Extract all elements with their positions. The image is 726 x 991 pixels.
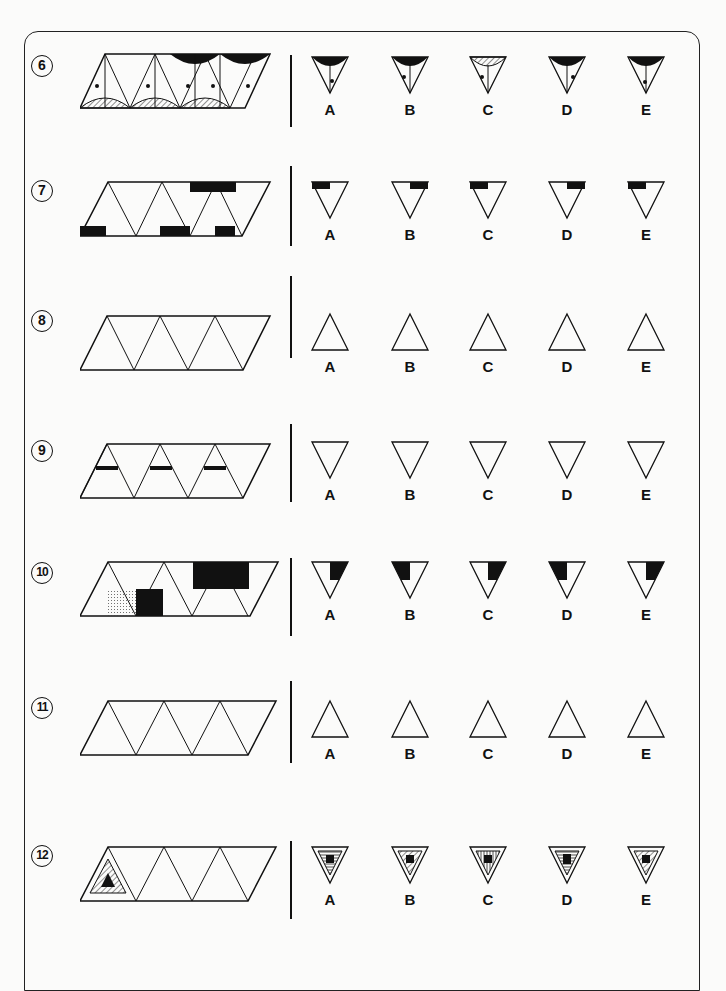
option-label: A — [300, 358, 360, 375]
question-number: 11 — [31, 697, 53, 719]
option-label: C — [458, 486, 518, 503]
option-label: E — [616, 606, 676, 623]
option-figure — [547, 440, 587, 480]
option-label: A — [300, 486, 360, 503]
divider — [290, 55, 292, 127]
sequence-strip — [80, 560, 280, 620]
option-label: D — [537, 891, 597, 908]
divider — [290, 276, 292, 358]
option-b[interactable]: B — [380, 699, 440, 762]
option-figure — [468, 180, 508, 220]
option-b[interactable]: B — [380, 845, 440, 908]
option-figure — [310, 180, 350, 220]
option-figure — [626, 440, 666, 480]
option-figure — [390, 440, 430, 480]
option-figure — [468, 440, 508, 480]
option-figure — [310, 699, 350, 739]
option-label: B — [380, 358, 440, 375]
option-figure — [547, 699, 587, 739]
option-c[interactable]: C — [458, 560, 518, 623]
option-figure — [626, 845, 666, 885]
option-a[interactable]: A — [300, 312, 360, 375]
option-a[interactable]: A — [300, 845, 360, 908]
option-d[interactable]: D — [537, 560, 597, 623]
option-label: A — [300, 745, 360, 762]
option-figure — [390, 180, 430, 220]
question-number: 9 — [31, 440, 53, 462]
option-figure — [310, 845, 350, 885]
option-label: A — [300, 226, 360, 243]
sequence-strip — [80, 442, 280, 502]
option-figure — [468, 845, 508, 885]
option-c[interactable]: C — [458, 312, 518, 375]
option-b[interactable]: B — [380, 55, 440, 118]
option-label: E — [616, 101, 676, 118]
option-c[interactable]: C — [458, 699, 518, 762]
option-a[interactable]: A — [300, 699, 360, 762]
option-e[interactable]: E — [616, 180, 676, 243]
option-c[interactable]: C — [458, 55, 518, 118]
divider — [290, 166, 292, 246]
option-b[interactable]: B — [380, 312, 440, 375]
option-label: C — [458, 891, 518, 908]
option-e[interactable]: E — [616, 699, 676, 762]
question-number: 7 — [31, 180, 53, 202]
option-label: B — [380, 101, 440, 118]
option-label: B — [380, 486, 440, 503]
option-label: B — [380, 226, 440, 243]
option-a[interactable]: A — [300, 180, 360, 243]
option-label: B — [380, 891, 440, 908]
option-figure — [626, 312, 666, 352]
divider — [290, 424, 292, 502]
option-figure — [390, 560, 430, 600]
option-e[interactable]: E — [616, 55, 676, 118]
option-e[interactable]: E — [616, 560, 676, 623]
option-label: D — [537, 606, 597, 623]
option-b[interactable]: B — [380, 180, 440, 243]
option-c[interactable]: C — [458, 845, 518, 908]
option-a[interactable]: A — [300, 560, 360, 623]
option-label: E — [616, 891, 676, 908]
option-d[interactable]: D — [537, 699, 597, 762]
option-figure — [626, 699, 666, 739]
option-b[interactable]: B — [380, 560, 440, 623]
option-figure — [626, 55, 666, 95]
option-d[interactable]: D — [537, 845, 597, 908]
option-d[interactable]: D — [537, 312, 597, 375]
option-figure — [310, 55, 350, 95]
option-label: C — [458, 745, 518, 762]
option-label: E — [616, 358, 676, 375]
option-d[interactable]: D — [537, 55, 597, 118]
question-number: 12 — [31, 845, 53, 867]
option-figure — [626, 180, 666, 220]
sequence-strip — [80, 180, 280, 240]
option-figure — [468, 55, 508, 95]
option-label: A — [300, 606, 360, 623]
option-d[interactable]: D — [537, 440, 597, 503]
option-label: A — [300, 101, 360, 118]
option-label: E — [616, 745, 676, 762]
option-c[interactable]: C — [458, 180, 518, 243]
option-c[interactable]: C — [458, 440, 518, 503]
option-figure — [547, 55, 587, 95]
option-figure — [547, 312, 587, 352]
question-number: 6 — [31, 55, 53, 77]
option-e[interactable]: E — [616, 312, 676, 375]
sequence-strip — [80, 845, 280, 905]
option-a[interactable]: A — [300, 55, 360, 118]
option-figure — [390, 699, 430, 739]
option-figure — [390, 55, 430, 95]
option-figure — [547, 845, 587, 885]
option-figure — [468, 560, 508, 600]
option-d[interactable]: D — [537, 180, 597, 243]
option-e[interactable]: E — [616, 440, 676, 503]
option-a[interactable]: A — [300, 440, 360, 503]
option-e[interactable]: E — [616, 845, 676, 908]
option-figure — [468, 312, 508, 352]
sequence-strip — [80, 699, 280, 759]
option-label: B — [380, 606, 440, 623]
option-label: C — [458, 226, 518, 243]
option-label: B — [380, 745, 440, 762]
question-number: 10 — [31, 562, 53, 584]
option-b[interactable]: B — [380, 440, 440, 503]
